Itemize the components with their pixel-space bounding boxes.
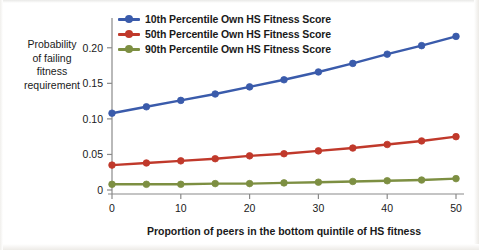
data-point bbox=[143, 181, 150, 188]
y-axis-label-line-2: of failing bbox=[8, 52, 96, 66]
data-point bbox=[350, 60, 357, 67]
series-line-2 bbox=[109, 133, 460, 168]
series-line-3 bbox=[109, 175, 460, 187]
data-point bbox=[281, 180, 288, 187]
x-axis-label: Proportion of peers in the bottom quinti… bbox=[96, 225, 472, 237]
page-background: 00.050.100.150.2001020304050 Probability… bbox=[0, 0, 479, 250]
data-point bbox=[418, 138, 425, 145]
y-axis-label-line-3: fitness bbox=[8, 65, 96, 79]
data-point bbox=[315, 179, 322, 186]
x-tick-label: 30 bbox=[313, 202, 325, 214]
x-tick-label: 10 bbox=[175, 202, 187, 214]
x-tick-label: 20 bbox=[244, 202, 256, 214]
legend-item-10th-percentile[interactable]: 10th Percentile Own HS Fitness Score bbox=[118, 12, 331, 26]
legend-item-90th-percentile[interactable]: 90th Percentile Own HS Fitness Score bbox=[118, 42, 331, 56]
data-point bbox=[246, 180, 253, 187]
data-point bbox=[178, 181, 185, 188]
data-point bbox=[350, 145, 357, 152]
data-point bbox=[246, 153, 253, 160]
data-point bbox=[350, 178, 357, 185]
y-tick-label: 0.10 bbox=[83, 113, 104, 125]
data-point bbox=[315, 69, 322, 76]
data-point bbox=[281, 150, 288, 157]
y-axis-label-line-4: requirement bbox=[8, 79, 96, 93]
data-point bbox=[212, 155, 219, 162]
data-point bbox=[212, 180, 219, 187]
data-point bbox=[109, 110, 116, 117]
data-point bbox=[384, 51, 391, 58]
data-point bbox=[143, 104, 150, 111]
data-point bbox=[418, 42, 425, 49]
legend-item-50th-percentile[interactable]: 50th Percentile Own HS Fitness Score bbox=[118, 27, 331, 41]
data-point bbox=[418, 177, 425, 184]
data-point bbox=[143, 160, 150, 167]
legend-marker-icon-90th bbox=[118, 43, 140, 55]
data-point bbox=[384, 177, 391, 184]
y-axis-label-line-1: Probability bbox=[8, 38, 96, 52]
x-tick-label: 40 bbox=[381, 202, 393, 214]
data-point bbox=[453, 175, 460, 182]
x-tick-label: 0 bbox=[109, 202, 115, 214]
legend-marker-icon-50th bbox=[118, 28, 140, 40]
data-point bbox=[109, 181, 116, 188]
data-point bbox=[178, 158, 185, 165]
data-point bbox=[453, 133, 460, 140]
data-point bbox=[178, 97, 185, 104]
x-tick-label: 50 bbox=[450, 202, 462, 214]
data-point bbox=[246, 84, 253, 91]
data-point bbox=[109, 162, 116, 169]
data-point bbox=[212, 91, 219, 98]
y-axis-label: Probability of failing fitness requireme… bbox=[8, 38, 96, 92]
data-point bbox=[281, 76, 288, 83]
chart-legend: 10th Percentile Own HS Fitness Score 50t… bbox=[118, 12, 331, 56]
y-tick-label: 0.05 bbox=[83, 148, 104, 160]
y-tick-label: 0 bbox=[97, 184, 103, 196]
legend-label-10th: 10th Percentile Own HS Fitness Score bbox=[145, 13, 331, 25]
line-chart-figure: 00.050.100.150.2001020304050 Probability… bbox=[0, 0, 479, 250]
legend-label-50th: 50th Percentile Own HS Fitness Score bbox=[145, 28, 331, 40]
legend-label-90th: 90th Percentile Own HS Fitness Score bbox=[145, 43, 331, 55]
data-point bbox=[384, 141, 391, 148]
data-point bbox=[453, 33, 460, 40]
data-point bbox=[315, 148, 322, 155]
legend-marker-icon-10th bbox=[118, 13, 140, 25]
